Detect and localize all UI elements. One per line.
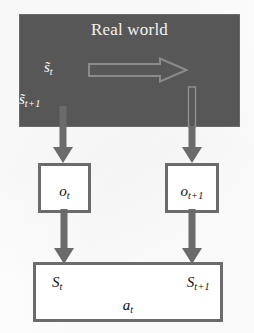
agent-state-box: St St+1 at (33, 262, 223, 322)
diagram-canvas: Real world s̃t s̃t+1 ot ot+1 St St+ (0, 0, 254, 333)
agent-action-sub: t (130, 304, 133, 315)
world-transition-arrow (88, 57, 188, 83)
observation-label-t1: ot+1 (180, 184, 203, 210)
belief-arrow-t1 (180, 209, 204, 266)
hidden-state-label-t1: s̃t+1 (19, 92, 41, 109)
agent-state-label-t: St (52, 275, 63, 292)
observation-sub-t: t (67, 190, 70, 201)
observation-box-t1: ot+1 (165, 163, 219, 213)
observation-box-t: ot (38, 163, 91, 213)
emission-arrow-t (51, 106, 75, 166)
agent-state-sub-t: t (60, 281, 63, 292)
observation-label-t: ot (59, 184, 70, 210)
hidden-state-sub-t1: t+1 (25, 98, 41, 109)
agent-state-sub-t1: t+1 (194, 281, 210, 292)
observation-sub-t1: t+1 (188, 190, 204, 201)
observation-base-t1: o (180, 183, 188, 199)
agent-state-label-t1: St+1 (187, 275, 210, 292)
observation-base-t: o (59, 183, 67, 199)
agent-state-base-t: S (52, 274, 60, 290)
agent-action-label: at (36, 298, 220, 315)
emission-arrow-t1 (180, 86, 204, 166)
hidden-state-label-t: s̃t (44, 60, 53, 77)
real-world-title: Real world (20, 21, 239, 40)
hidden-state-sub-t: t (50, 66, 53, 77)
belief-arrow-t (52, 209, 76, 266)
